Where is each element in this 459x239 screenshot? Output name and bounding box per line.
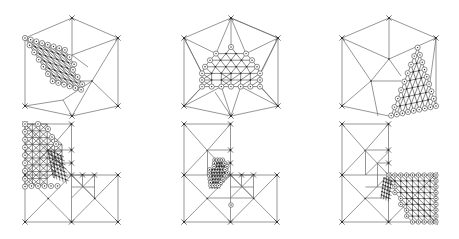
mesh-edge	[417, 101, 423, 102]
mesh-edge	[72, 38, 118, 55]
boundary-node-circle-icon	[248, 84, 253, 89]
boundary-node-circle-icon	[29, 183, 34, 188]
mesh-node	[211, 175, 213, 177]
mesh-node	[422, 100, 424, 102]
boundary-node-circle-icon	[434, 196, 438, 200]
boundary-node-circle-icon	[394, 112, 399, 117]
mesh-edge	[418, 204, 424, 210]
mesh-edge	[407, 193, 413, 199]
mesh-node	[423, 204, 425, 206]
mesh-edge	[389, 18, 436, 38]
mesh-node	[388, 58, 390, 60]
mesh-edge	[413, 71, 419, 72]
mesh-edge	[413, 210, 419, 216]
mesh-node	[412, 87, 414, 89]
mesh-node	[423, 192, 425, 194]
boundary-node-circle-icon	[213, 51, 218, 56]
boundary-node-circle-icon	[45, 71, 50, 76]
mesh-edge	[95, 199, 118, 223]
mesh-edge	[226, 67, 231, 74]
mesh-node	[211, 79, 213, 81]
boundary-node-circle-icon	[416, 220, 420, 224]
mesh-node	[212, 178, 214, 180]
mesh-edge	[365, 199, 388, 223]
mesh-node	[240, 73, 242, 75]
mesh-node	[60, 71, 62, 73]
mesh-node	[221, 73, 223, 75]
mesh-node	[225, 53, 227, 55]
boundary-node-circle-icon	[427, 82, 432, 87]
mesh-node	[420, 77, 422, 79]
boundary-node-circle-icon	[254, 64, 259, 69]
panel-hex-refine-upper-left	[22, 15, 120, 118]
boundary-node-circle-icon	[434, 173, 438, 177]
boundary-node-circle-icon	[79, 87, 84, 92]
mesh-edge	[410, 79, 416, 80]
mesh-node	[406, 180, 408, 182]
mesh-edge	[236, 54, 242, 61]
mesh-edge	[25, 199, 48, 223]
mesh-node	[370, 80, 372, 82]
mesh-edge	[416, 78, 422, 79]
mesh-edge	[231, 54, 236, 61]
boundary-node-circle-icon	[434, 220, 438, 224]
mesh-node	[429, 192, 431, 194]
mesh-edge	[184, 87, 202, 106]
mesh-edge	[215, 67, 221, 74]
mesh-node	[405, 104, 407, 106]
mesh-edge	[92, 38, 118, 81]
mesh-node	[70, 80, 72, 82]
mesh-node	[419, 93, 421, 95]
mesh-edge	[401, 187, 407, 193]
boundary-node-circle-icon	[199, 77, 204, 82]
boundary-node-circle-icon	[228, 84, 233, 89]
mesh-node	[76, 82, 78, 84]
mesh-node	[429, 186, 431, 188]
vertex-cross-icon	[228, 113, 233, 118]
mesh-edge	[371, 59, 389, 81]
mesh-edge	[413, 72, 415, 79]
boundary-node-circle-icon	[27, 43, 32, 48]
mesh-edge	[247, 67, 251, 74]
mesh-node	[423, 85, 425, 87]
boundary-node-circle-icon	[429, 89, 434, 94]
boundary-node-circle-icon	[415, 45, 420, 50]
boundary-node-circle-icon	[199, 84, 204, 89]
boundary-node-circle-icon	[56, 80, 61, 85]
mesh-node	[71, 75, 73, 77]
mesh-node	[415, 78, 417, 80]
mesh-node	[412, 192, 414, 194]
mesh-node	[418, 198, 420, 200]
mesh-edge	[418, 199, 424, 205]
boundary-node-circle-icon	[243, 51, 248, 56]
mesh-node	[215, 66, 217, 68]
boundary-node-circle-icon	[212, 164, 216, 168]
mesh-node	[212, 182, 214, 184]
mesh-node	[412, 204, 414, 206]
mesh-edge	[420, 94, 422, 101]
mesh-edge	[401, 181, 407, 187]
mesh-edge	[25, 100, 63, 106]
mesh-node	[219, 172, 221, 174]
mesh-node	[61, 66, 63, 68]
mesh-edge	[412, 79, 415, 88]
mesh-edge	[416, 71, 419, 80]
mesh-edge	[412, 87, 418, 88]
boundary-node-circle-icon	[402, 79, 407, 84]
mesh-edge	[184, 199, 207, 223]
mesh-edge	[420, 93, 426, 94]
boundary-node-circle-icon	[75, 74, 80, 79]
mesh-edge	[342, 81, 371, 106]
mesh-edge	[342, 175, 365, 199]
mesh-node	[67, 67, 69, 69]
mesh-node	[412, 215, 414, 217]
mesh-node	[46, 50, 48, 52]
mesh-node	[68, 62, 70, 64]
boundary-node-circle-icon	[434, 214, 438, 218]
mesh-node	[418, 70, 420, 72]
boundary-node-circle-icon	[434, 179, 438, 183]
mesh-edge	[400, 105, 406, 106]
mesh-edge	[236, 67, 240, 74]
boundary-node-circle-icon	[405, 109, 410, 114]
mesh-edge	[403, 97, 405, 104]
